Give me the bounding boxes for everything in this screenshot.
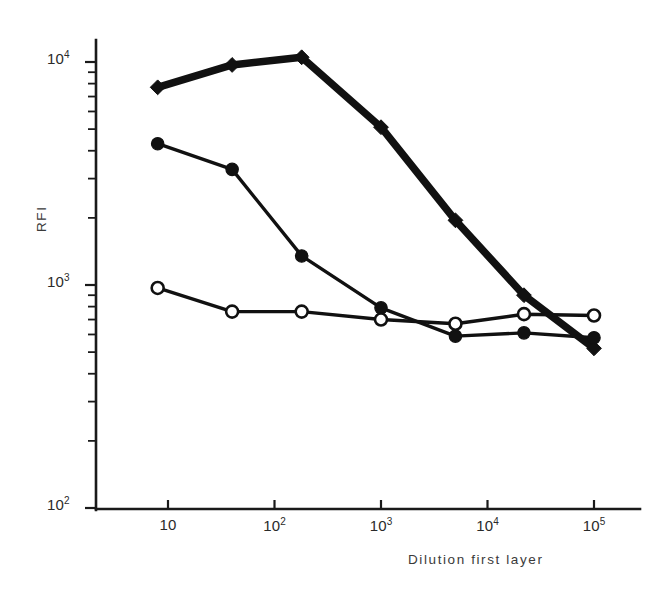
x-tick-label: 104	[476, 516, 499, 534]
axes-group	[96, 40, 640, 510]
marker-open-circle	[375, 314, 387, 326]
marker-open-circle	[296, 306, 308, 318]
figure-panel: Dilution first layer RFI 104103102101021…	[0, 0, 658, 599]
y-tick-label: 102	[47, 495, 70, 513]
marker-filled-circle	[151, 138, 163, 150]
x-tick-label: 103	[370, 516, 393, 534]
marker-open-circle	[518, 308, 530, 320]
marker-open-circle	[226, 306, 238, 318]
y-tick-label: 104	[47, 49, 70, 67]
marker-open-circle	[588, 309, 600, 321]
x-axis-ticks	[168, 500, 594, 509]
x-tick-label: 10	[159, 516, 176, 533]
x-axis-title: Dilution first layer	[408, 552, 544, 567]
marker-filled-circle	[449, 330, 461, 342]
chart-canvas	[0, 0, 658, 599]
marker-filled-circle	[588, 332, 600, 344]
y-axis-title: RFI	[34, 205, 49, 232]
y-tick-label: 103	[47, 272, 70, 290]
y-axis-ticks	[85, 62, 96, 508]
marker-filled-circle	[375, 302, 387, 314]
marker-filled-circle	[226, 163, 238, 175]
x-tick-label: 105	[583, 516, 606, 534]
marker-open-circle	[152, 282, 164, 294]
marker-filled-circle	[295, 250, 307, 262]
marker-open-circle	[449, 318, 461, 330]
series-layer	[150, 50, 601, 356]
x-tick-label: 102	[263, 516, 286, 534]
marker-filled-circle	[518, 327, 530, 339]
